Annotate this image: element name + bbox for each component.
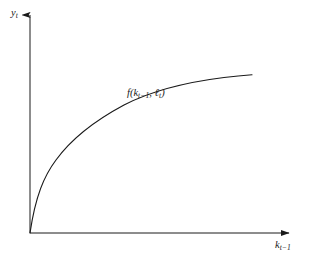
y-axis-label: yt: [11, 8, 18, 20]
x-axis-label: kt−1: [275, 240, 291, 252]
curve-label-capital-subscript: t−1: [138, 91, 149, 100]
curve-label-close-paren: ): [161, 87, 165, 98]
production-function-label: f(kt−1, ℓt): [127, 88, 165, 100]
y-axis-label-subscript: t: [16, 11, 18, 20]
x-axis-label-subscript: t−1: [280, 243, 291, 252]
production-function-figure: yt kt−1 f(kt−1, ℓt): [0, 0, 317, 263]
chart-canvas: [0, 0, 317, 263]
